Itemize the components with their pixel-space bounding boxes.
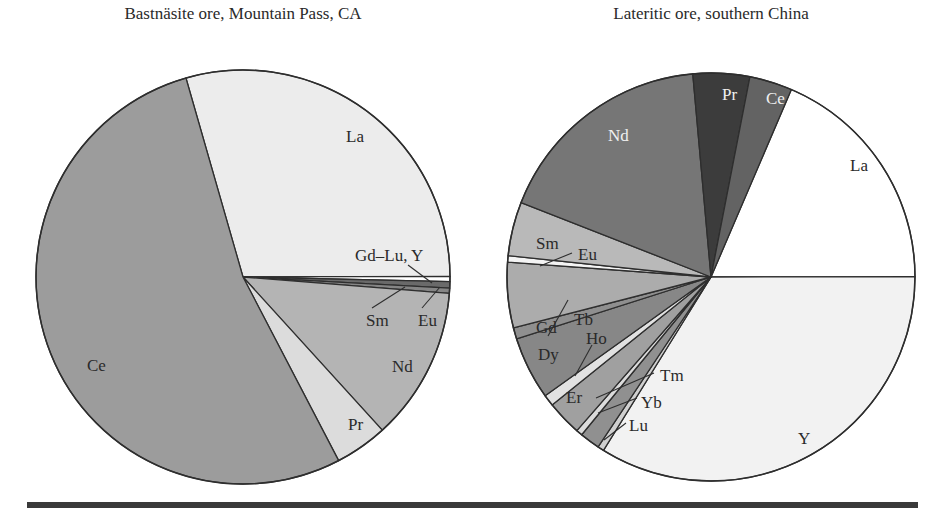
slice-label-nd: Nd [608,126,629,145]
slice-label-gd-lu-y: Gd–Lu, Y [355,246,423,265]
slice-label-la: La [346,127,364,146]
slice-label-ho: Ho [586,329,607,348]
slice-label-nd: Nd [392,357,413,376]
slice-label-yb: Yb [641,393,662,412]
slice-label-gd: Gd [536,318,557,337]
slice-label-lu: Lu [629,416,648,435]
bottom-rule [27,502,918,508]
pie-bastn-site-ore-mountain-pass-ca: LaGd–Lu, YSmEuNdPrCe [36,70,450,484]
slice-label-tm: Tm [660,366,684,385]
slice-label-sm: Sm [536,234,559,253]
slice-label-pr: Pr [722,85,737,104]
slice-label-eu: Eu [418,311,437,330]
slice-label-dy: Dy [538,345,559,364]
slice-label-tb: Tb [574,310,593,329]
slice-label-la: La [850,156,868,175]
pie-charts: LaGd–Lu, YSmEuNdPrCeYLaCePrNdSmEuGdTbDyH… [0,0,948,518]
slice-label-pr: Pr [348,415,363,434]
slice-label-y: Y [798,429,810,448]
slice-label-sm: Sm [366,311,389,330]
slice-label-eu: Eu [578,245,597,264]
pie-lateritic-ore-southern-china: YLaCePrNdSmEuGdTbDyHoErTmYbLu [507,73,915,481]
slice-label-er: Er [566,388,582,407]
slice-label-ce: Ce [766,89,785,108]
slice-label-ce: Ce [87,356,106,375]
